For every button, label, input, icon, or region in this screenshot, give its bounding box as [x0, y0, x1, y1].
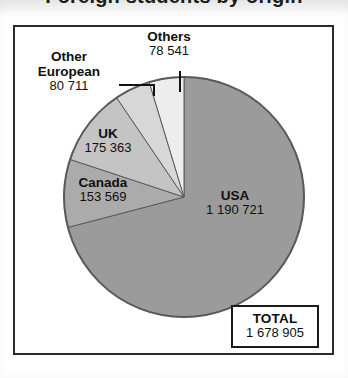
title-strip: Foreign students by origin [0, 0, 348, 22]
total-box-value: 1 678 905 [239, 326, 311, 341]
slice-label-others: Others 78 541 [121, 29, 217, 59]
slice-label-other-european: Other European 80 711 [17, 49, 121, 94]
slice-label-others-value: 78 541 [121, 44, 217, 59]
title-fade-overlay [0, 8, 348, 22]
slice-label-other-european-line1: Other [17, 49, 121, 64]
page-title: Foreign students by origin [45, 0, 302, 8]
slice-label-uk-value: 175 363 [63, 141, 153, 156]
slice-label-canada-value: 153 569 [50, 190, 156, 205]
leader-line-others [179, 71, 181, 92]
slice-label-other-european-value: 80 711 [17, 79, 121, 94]
slice-label-usa-value: 1 190 721 [183, 203, 287, 218]
slice-label-usa: USA 1 190 721 [183, 188, 287, 218]
slice-label-uk: UK 175 363 [63, 126, 153, 156]
leader-line-other-european-horizontal [119, 84, 155, 86]
slice-label-other-european-line2: European [17, 64, 121, 79]
total-box: TOTAL 1 678 905 [231, 305, 319, 348]
slice-label-canada-name: Canada [50, 175, 156, 190]
slice-label-usa-name: USA [183, 188, 287, 203]
slice-label-canada: Canada 153 569 [50, 175, 156, 205]
slice-label-others-name: Others [121, 29, 217, 44]
leader-line-other-european-vertical [153, 84, 155, 96]
slice-label-uk-name: UK [63, 126, 153, 141]
total-box-label: TOTAL [239, 311, 311, 326]
chart-frame: Others 78 541 Other European 80 711 UK 1… [13, 25, 334, 355]
